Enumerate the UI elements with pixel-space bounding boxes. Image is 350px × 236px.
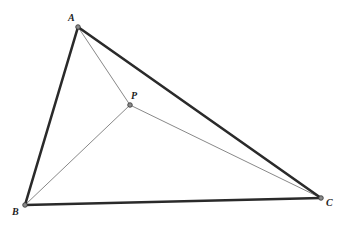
triangle-diagram: A B C P	[0, 0, 350, 236]
label-a: A	[67, 12, 75, 23]
label-p: P	[131, 90, 138, 101]
point-c	[319, 196, 324, 201]
point-p	[128, 103, 133, 108]
label-c: C	[326, 197, 333, 208]
point-a	[76, 25, 81, 30]
point-b	[23, 203, 28, 208]
label-b: B	[11, 206, 19, 217]
